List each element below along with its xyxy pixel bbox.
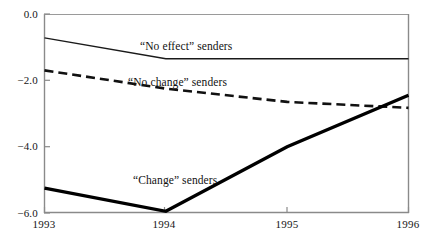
x-tick-label-1993: 1993 [19, 218, 69, 230]
y-tick-label-1: −2.0 [4, 74, 38, 86]
series-label-change: “Change” senders [133, 174, 217, 186]
x-tick-label-1996: 1996 [383, 218, 433, 230]
y-tick-label-2: −4.0 [4, 140, 38, 152]
chart-figure: 0.0 −2.0 −4.0 −6.0 1993 1994 1995 1996 “… [0, 0, 434, 250]
series-label-no-change: “No change” senders [128, 76, 227, 88]
x-tick-label-1995: 1995 [262, 218, 312, 230]
x-tick-label-1994: 1994 [139, 218, 189, 230]
y-tick-label-0: 0.0 [4, 8, 38, 20]
series-change-line [45, 95, 409, 211]
series-lines [45, 38, 409, 211]
series-label-no-effect: “No effect” senders [140, 40, 232, 52]
chart-plot-area [0, 0, 434, 250]
